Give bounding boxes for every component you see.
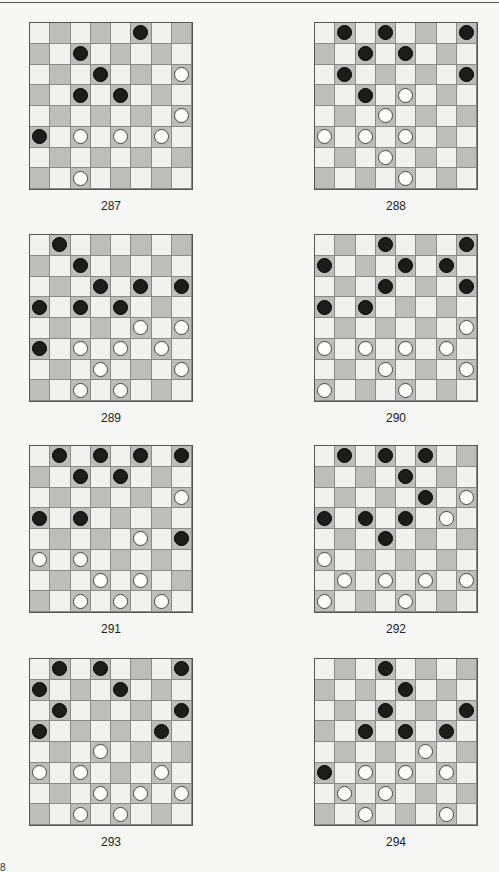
dark-square xyxy=(376,106,396,127)
white-checker-piece xyxy=(439,341,454,356)
light-square xyxy=(30,659,50,680)
white-checker-piece xyxy=(174,108,189,123)
dark-square xyxy=(335,742,355,763)
white-checker-piece xyxy=(398,341,413,356)
black-checker-piece xyxy=(93,661,108,676)
dark-square xyxy=(457,659,477,680)
light-square xyxy=(315,360,335,381)
dark-square xyxy=(172,529,192,550)
black-checker-piece xyxy=(459,237,474,252)
light-square xyxy=(315,235,335,256)
white-checker-piece xyxy=(398,594,413,609)
dark-square xyxy=(172,318,192,339)
light-square xyxy=(335,297,355,318)
black-checker-piece xyxy=(93,67,108,82)
dark-square xyxy=(30,680,50,701)
light-square xyxy=(91,467,111,488)
light-square xyxy=(376,591,396,612)
light-square xyxy=(315,529,335,550)
light-square xyxy=(396,446,416,467)
light-square xyxy=(71,277,91,298)
white-checker-piece xyxy=(358,765,373,780)
white-checker-piece xyxy=(317,552,332,567)
dark-square xyxy=(71,591,91,612)
black-checker-piece xyxy=(52,661,67,676)
light-square xyxy=(131,804,151,825)
light-square xyxy=(131,44,151,65)
black-checker-piece xyxy=(52,703,67,718)
light-square xyxy=(71,360,91,381)
dark-square xyxy=(416,446,436,467)
light-square xyxy=(152,23,172,44)
dark-square xyxy=(71,44,91,65)
black-checker-piece xyxy=(337,448,352,463)
dark-square xyxy=(457,784,477,805)
dark-square xyxy=(91,446,111,467)
light-square xyxy=(30,106,50,127)
white-checker-piece xyxy=(174,490,189,505)
puzzle-number: 291 xyxy=(29,622,193,636)
white-checker-piece xyxy=(73,341,88,356)
dark-square xyxy=(152,721,172,742)
dark-square xyxy=(111,168,131,189)
light-square xyxy=(335,680,355,701)
dark-square xyxy=(416,360,436,381)
dark-square xyxy=(315,467,335,488)
dark-square xyxy=(335,784,355,805)
light-square xyxy=(71,23,91,44)
black-checker-piece xyxy=(133,279,148,294)
dark-square xyxy=(356,44,376,65)
black-checker-piece xyxy=(358,300,373,315)
dark-square xyxy=(315,721,335,742)
light-square xyxy=(111,23,131,44)
dark-square xyxy=(50,148,70,169)
light-square xyxy=(376,127,396,148)
dark-square xyxy=(396,763,416,784)
dark-square xyxy=(172,701,192,722)
dark-square xyxy=(50,360,70,381)
black-checker-piece xyxy=(113,469,128,484)
light-square xyxy=(396,318,416,339)
light-square xyxy=(111,659,131,680)
light-square xyxy=(91,44,111,65)
light-square xyxy=(356,701,376,722)
black-checker-piece xyxy=(398,469,413,484)
black-checker-piece xyxy=(337,25,352,40)
light-square xyxy=(71,742,91,763)
light-square xyxy=(30,235,50,256)
puzzle-292: 292 xyxy=(314,445,479,636)
light-square xyxy=(71,148,91,169)
white-checker-piece xyxy=(439,511,454,526)
black-checker-piece xyxy=(174,279,189,294)
dark-square xyxy=(91,235,111,256)
light-square xyxy=(335,804,355,825)
white-checker-piece xyxy=(154,129,169,144)
dark-square xyxy=(396,467,416,488)
dark-square xyxy=(71,804,91,825)
dark-square xyxy=(91,742,111,763)
dark-square xyxy=(396,804,416,825)
dark-square xyxy=(376,784,396,805)
light-square xyxy=(91,680,111,701)
light-square xyxy=(152,488,172,509)
dark-square xyxy=(396,508,416,529)
black-checker-piece xyxy=(317,258,332,273)
black-checker-piece xyxy=(398,724,413,739)
dark-square xyxy=(172,360,192,381)
dark-square xyxy=(131,23,151,44)
light-square xyxy=(416,297,436,318)
light-square xyxy=(437,106,457,127)
dark-square xyxy=(91,784,111,805)
light-square xyxy=(376,763,396,784)
light-square xyxy=(50,804,70,825)
light-square xyxy=(416,804,436,825)
dark-square xyxy=(131,488,151,509)
dark-square xyxy=(172,148,192,169)
light-square xyxy=(416,380,436,401)
light-square xyxy=(396,277,416,298)
black-checker-piece xyxy=(398,511,413,526)
dark-square xyxy=(396,680,416,701)
dark-square xyxy=(356,297,376,318)
light-square xyxy=(356,148,376,169)
dark-square xyxy=(71,467,91,488)
